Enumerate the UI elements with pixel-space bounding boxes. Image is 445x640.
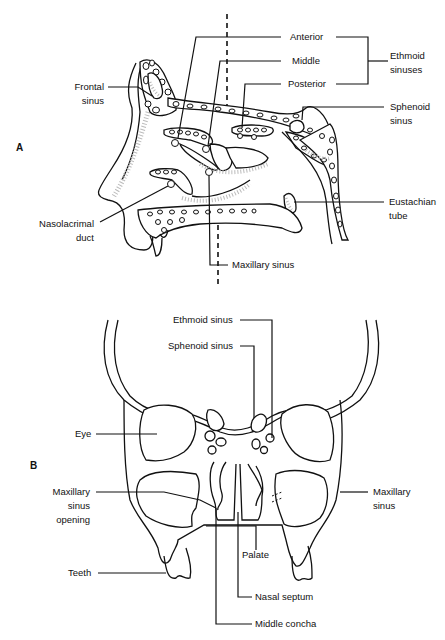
panel-b-leader-lines xyxy=(96,320,368,624)
label-eustachian-tube: Eustachian tube xyxy=(389,196,436,222)
label-middle: Middle xyxy=(292,55,320,67)
label-ethmoid-sinuses: Ethmoid sinuses xyxy=(390,50,425,76)
label-maxillary-sinus-b: Maxillary sinus xyxy=(373,486,410,512)
label-middle-concha: Middle concha xyxy=(255,618,316,630)
label-eustachian-tube-line1: Eustachian xyxy=(389,196,436,208)
label-eustachian-tube-line2: tube xyxy=(389,210,436,222)
panel-a-letter: A xyxy=(16,142,23,153)
label-sphenoid-sinus-a-line2: sinus xyxy=(390,115,430,127)
label-maxillary-sinus-opening-line1: Maxillary xyxy=(40,486,90,498)
label-nasal-septum: Nasal septum xyxy=(255,591,313,603)
label-maxillary-sinus-opening-line2: sinus xyxy=(40,500,90,512)
label-posterior: Posterior xyxy=(288,78,326,90)
coronal-view xyxy=(104,320,378,580)
label-maxillary-sinus-b-line2: sinus xyxy=(373,500,410,512)
label-ethmoid-sinuses-line2: sinuses xyxy=(390,64,425,76)
label-sphenoid-sinus-b: Sphenoid sinus xyxy=(168,340,233,352)
label-frontal-sinus-line1: Frontal xyxy=(66,81,104,93)
label-maxillary-sinus-opening-line3: opening xyxy=(40,514,90,526)
label-teeth: Teeth xyxy=(68,567,91,579)
label-maxillary-sinus-opening: Maxillary sinus opening xyxy=(40,486,90,526)
label-frontal-sinus: Frontal sinus xyxy=(66,81,104,107)
label-sphenoid-sinus-a: Sphenoid sinus xyxy=(390,101,430,127)
label-palate: Palate xyxy=(242,549,269,561)
label-nasolacrimal-duct-line2: duct xyxy=(26,232,94,244)
label-ethmoid-sinus-b: Ethmoid sinus xyxy=(173,314,233,326)
label-eye: Eye xyxy=(75,428,91,440)
label-frontal-sinus-line2: sinus xyxy=(66,95,104,107)
label-nasolacrimal-duct: Nasolacrimal duct xyxy=(26,218,94,244)
panel-b-letter: B xyxy=(30,460,37,471)
label-sphenoid-sinus-a-line1: Sphenoid xyxy=(390,101,430,113)
label-nasolacrimal-duct-line1: Nasolacrimal xyxy=(26,218,94,230)
label-ethmoid-sinuses-line1: Ethmoid xyxy=(390,50,425,62)
label-anterior: Anterior xyxy=(290,31,323,43)
label-maxillary-sinus-a: Maxillary sinus xyxy=(232,259,294,271)
label-maxillary-sinus-b-line1: Maxillary xyxy=(373,486,410,498)
